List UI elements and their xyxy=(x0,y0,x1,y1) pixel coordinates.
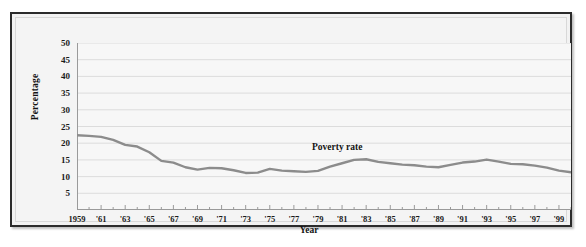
chart-inner-bevel: Percentage 5101520253035404550 1959'61'6… xyxy=(15,17,567,222)
y-tick-label-45: 45 xyxy=(44,55,70,65)
series-annotation-poverty-rate: Poverty rate xyxy=(312,142,362,152)
y-tick-label-20: 20 xyxy=(44,138,70,148)
y-tick-label-35: 35 xyxy=(44,88,70,98)
chart-frame: Percentage 5101520253035404550 1959'61'6… xyxy=(10,12,572,227)
y-tick-label-10: 10 xyxy=(44,172,70,182)
gridlines-group xyxy=(77,43,571,193)
y-axis-label: Percentage xyxy=(30,59,40,135)
y-tick-label-30: 30 xyxy=(44,105,70,115)
poverty-rate-chart-figure: Percentage 5101520253035404550 1959'61'6… xyxy=(0,0,586,247)
y-tick-label-50: 50 xyxy=(44,38,70,48)
plot-area xyxy=(77,43,571,210)
x-tick-label-1999: '99 xyxy=(539,214,579,224)
y-tick-label-15: 15 xyxy=(44,155,70,165)
plot-svg xyxy=(77,43,571,210)
y-tick-label-5: 5 xyxy=(44,188,70,198)
y-tick-label-25: 25 xyxy=(44,122,70,132)
x-axis-label: Year xyxy=(16,225,586,235)
series-line-poverty-rate xyxy=(77,135,571,173)
y-tick-label-40: 40 xyxy=(44,71,70,81)
